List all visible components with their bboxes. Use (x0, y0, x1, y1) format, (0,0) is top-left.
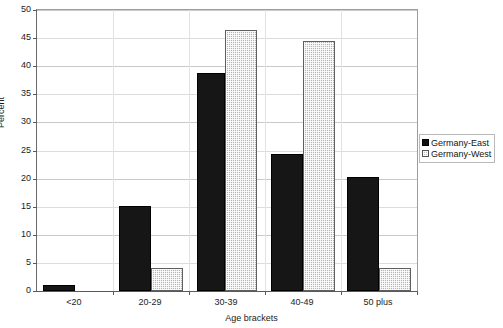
y-tick-label: 45 (9, 33, 31, 42)
y-tick (33, 291, 37, 292)
y-tick (33, 94, 37, 95)
y-tick-label: 10 (9, 230, 31, 239)
legend-swatch-east-icon (422, 139, 429, 146)
x-tick-label: <20 (36, 297, 112, 307)
y-axis-title: Percent (0, 97, 6, 128)
category-separator (341, 10, 342, 291)
legend-item-germany-east: Germany-East (422, 137, 491, 148)
bar-chart: 05101520253035404550 <2020-2930-3940-495… (0, 0, 503, 328)
legend-label-east: Germany-East (431, 138, 489, 148)
y-tick-label: 25 (9, 146, 31, 155)
x-tick-label: 20-29 (112, 297, 188, 307)
x-tick (341, 291, 342, 295)
y-tick (33, 263, 37, 264)
x-tick (189, 291, 190, 295)
category-separator (189, 10, 190, 291)
bar-west (303, 41, 335, 291)
chart-legend: Germany-East Germany-West (419, 134, 495, 163)
x-axis-title: Age brackets (0, 313, 503, 323)
y-tick-label: 15 (9, 202, 31, 211)
y-tick-label: 5 (9, 258, 31, 267)
legend-item-germany-west: Germany-West (422, 148, 491, 159)
y-tick-label: 30 (9, 117, 31, 126)
x-tick (265, 291, 266, 295)
y-tick (33, 207, 37, 208)
y-tick (33, 179, 37, 180)
bar-east (271, 154, 303, 291)
y-tick (33, 10, 37, 11)
bar-west (151, 268, 183, 291)
bar-west (379, 268, 411, 291)
x-tick-label: 40-49 (264, 297, 340, 307)
y-tick (33, 122, 37, 123)
category-separator (113, 10, 114, 291)
y-tick (33, 151, 37, 152)
bar-east (347, 177, 379, 291)
bar-east (119, 206, 151, 291)
y-tick-label: 20 (9, 174, 31, 183)
plot-area (36, 9, 418, 292)
gridline (37, 10, 417, 11)
category-separator (265, 10, 266, 291)
y-tick-label: 35 (9, 89, 31, 98)
bar-east (197, 73, 225, 291)
y-tick-label: 40 (9, 61, 31, 70)
y-tick (33, 66, 37, 67)
x-tick (113, 291, 114, 295)
y-tick (33, 235, 37, 236)
legend-swatch-west-icon (422, 150, 429, 157)
y-tick-label: 50 (9, 5, 31, 14)
legend-label-west: Germany-West (431, 149, 491, 159)
y-tick (33, 38, 37, 39)
bar-west (225, 30, 257, 291)
x-tick-label: 50 plus (340, 297, 416, 307)
x-tick-label: 30-39 (188, 297, 264, 307)
bar-east (43, 285, 75, 291)
x-tick (417, 291, 418, 295)
y-tick-label: 0 (9, 286, 31, 295)
